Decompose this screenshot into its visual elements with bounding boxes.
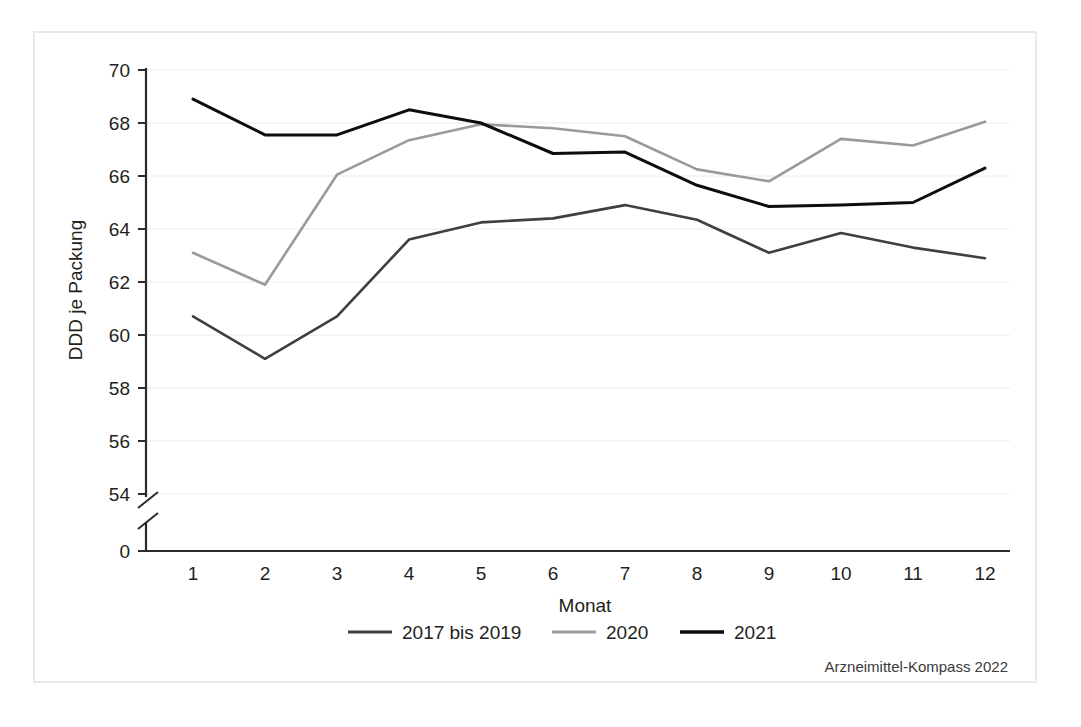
y-tick-label-60: 60 bbox=[109, 325, 130, 346]
x-tick-label-6: 6 bbox=[548, 563, 559, 584]
x-tick-label-12: 12 bbox=[974, 563, 995, 584]
x-tick-label-8: 8 bbox=[692, 563, 703, 584]
figure-root: 70 68 66 64 62 60 58 56 54 0 DDD je Pack… bbox=[0, 0, 1081, 727]
x-axis-title: Monat bbox=[559, 595, 613, 616]
x-tick-label-10: 10 bbox=[830, 563, 851, 584]
x-tick-label-9: 9 bbox=[764, 563, 775, 584]
legend-label-2020: 2020 bbox=[606, 622, 648, 643]
source-attribution: Arzneimittel-Kompass 2022 bbox=[825, 658, 1008, 675]
y-tick-label-66: 66 bbox=[109, 166, 130, 187]
y-tick-label-70: 70 bbox=[109, 60, 130, 81]
x-tick-label-3: 3 bbox=[332, 563, 343, 584]
y-tick-label-58: 58 bbox=[109, 378, 130, 399]
legend-label-2021: 2021 bbox=[734, 622, 776, 643]
axis-lines bbox=[146, 68, 1010, 551]
y-tick-label-56: 56 bbox=[109, 431, 130, 452]
y-tick-label-54: 54 bbox=[109, 484, 131, 505]
y-tick-label-68: 68 bbox=[109, 113, 130, 134]
y-axis-break-icon bbox=[138, 492, 158, 529]
x-tick-label-7: 7 bbox=[620, 563, 631, 584]
x-tick-label-1: 1 bbox=[188, 563, 199, 584]
x-tick-label-5: 5 bbox=[476, 563, 487, 584]
legend-label-2017-bis-2019: 2017 bis 2019 bbox=[402, 622, 521, 643]
x-tick-label-11: 11 bbox=[903, 563, 923, 584]
line-chart: 70 68 66 64 62 60 58 56 54 0 DDD je Pack… bbox=[0, 0, 1081, 727]
x-tick-label-4: 4 bbox=[404, 563, 415, 584]
x-tick-label-2: 2 bbox=[260, 563, 271, 584]
y-axis-title: DDD je Packung bbox=[65, 220, 86, 360]
series-line-2021 bbox=[193, 99, 985, 206]
legend: 2017 bis 2019 2020 2021 bbox=[348, 622, 776, 643]
y-tick-label-64: 64 bbox=[109, 219, 131, 240]
y-axis-ticks bbox=[138, 70, 146, 551]
x-axis-tick-labels: 1 2 3 4 5 6 7 8 9 10 11 12 bbox=[188, 563, 996, 584]
y-tick-label-62: 62 bbox=[109, 272, 130, 293]
y-axis-tick-labels: 70 68 66 64 62 60 58 56 54 0 bbox=[109, 60, 131, 562]
y-tick-label-0: 0 bbox=[119, 541, 130, 562]
